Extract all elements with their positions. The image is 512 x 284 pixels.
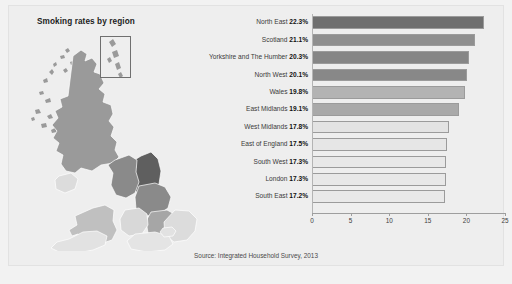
bar-track [312,34,505,47]
bar-row-label: Scotland 21.1% [209,37,312,44]
bar-track [312,138,505,151]
bar-track [312,156,505,169]
bar-row: East of England 17.5% [209,136,505,153]
bar-row-label: London 17.3% [209,176,312,183]
x-axis-tick-label: 0 [310,217,314,224]
bar-row: South West 17.3% [209,153,505,170]
region-name: East of England [241,140,289,147]
bar-track [312,190,505,203]
region-value: 19.1% [289,105,308,112]
bar-row-label: East Midlands 19.1% [209,106,312,113]
shetland-inset-box [100,36,131,78]
x-axis-tick-label: 20 [463,217,470,224]
bar[interactable] [312,173,446,186]
x-axis-tick-label: 25 [501,217,508,224]
bar[interactable] [312,86,465,99]
map-region-london [160,227,176,237]
bar[interactable] [312,69,467,82]
map-region-northern-ireland [55,173,78,193]
region-name: North East [256,18,289,25]
region-value: 17.2% [289,192,308,199]
x-axis-tick [351,213,352,216]
region-name: London [265,175,289,182]
region-value: 22.3% [289,18,308,25]
bar-row: North West 20.1% [209,66,505,83]
region-value: 17.3% [289,158,308,165]
x-axis-tick-label: 5 [349,217,353,224]
bar-row: Wales 19.8% [209,84,505,101]
bar-row: South East 17.2% [209,188,505,205]
bar[interactable] [312,34,475,47]
bar[interactable] [312,156,446,169]
x-axis-tick [428,213,429,216]
region-name: South West [254,158,290,165]
bar-track [312,16,505,29]
bar-track [312,86,505,99]
region-name: East Midlands [246,105,289,112]
x-axis-tick-label: 10 [386,217,393,224]
x-axis-tick [466,213,467,216]
bar-row: West Midlands 17.8% [209,118,505,135]
x-axis-tick [505,213,506,216]
infographic-panel: Smoking rates by region [8,5,504,266]
region-name: South East [255,192,289,199]
x-axis-tick [312,213,313,216]
bar-row: Yorkshire and The Humber 20.3% [209,49,505,66]
region-name: Scotland [262,36,290,43]
bar-track [312,121,505,134]
bar-row-label: East of England 17.5% [209,141,312,148]
region-value: 20.1% [289,71,308,78]
region-value: 17.5% [289,140,308,147]
region-name: West Midlands [244,123,289,130]
bar-row: North East 22.3% [209,14,505,31]
bar[interactable] [312,16,484,29]
x-axis: 0510152025 [312,213,505,233]
x-axis-line [312,213,505,214]
map-region-south-west [51,231,107,251]
source-note: Source: Integrated Household Survey, 201… [9,252,503,259]
bar-row: London 17.3% [209,171,505,188]
bar[interactable] [312,190,445,203]
bar-row: East Midlands 19.1% [209,101,505,118]
bar-track [312,69,505,82]
bar-row-label: Wales 19.8% [209,89,312,96]
bar-track [312,103,505,116]
bar-row: Scotland 21.1% [209,31,505,48]
bar-rows: North East 22.3%Scotland 21.1%Yorkshire … [209,14,505,205]
region-name: North West [255,71,290,78]
x-axis-tick [389,213,390,216]
map-region-west-midlands [120,208,148,236]
bar-row-label: South East 17.2% [209,193,312,200]
region-value: 21.1% [289,36,308,43]
region-name: Yorkshire and The Humber [209,53,289,60]
region-value: 19.8% [289,88,308,95]
region-name: Wales [269,88,289,95]
bar[interactable] [312,103,459,116]
region-value: 17.3% [289,175,308,182]
bar-row-label: North East 22.3% [209,19,312,26]
bar-row-label: Yorkshire and The Humber 20.3% [209,54,312,61]
bar-row-label: North West 20.1% [209,72,312,79]
map-region-north-west [108,155,139,198]
bar-track [312,173,505,186]
x-axis-tick-label: 15 [424,217,431,224]
bar-row-label: West Midlands 17.8% [209,124,312,131]
bar[interactable] [312,138,447,151]
bar-track [312,51,505,64]
bar-chart: North East 22.3%Scotland 21.1%Yorkshire … [209,14,505,249]
page-title: Smoking rates by region [37,17,135,26]
bar-row-label: South West 17.3% [209,159,312,166]
region-value: 17.8% [289,123,308,130]
uk-choropleth-map [23,26,203,251]
bar[interactable] [312,51,469,64]
region-value: 20.3% [289,53,308,60]
bar[interactable] [312,121,449,134]
